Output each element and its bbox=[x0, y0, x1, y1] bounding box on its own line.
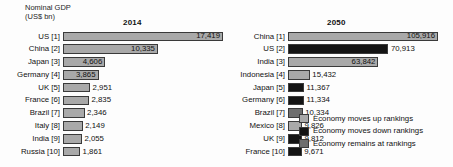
row-label-germany: Germany [4] bbox=[0, 71, 63, 79]
bar-germany bbox=[288, 96, 304, 106]
row-label-india: India [3] bbox=[226, 58, 288, 66]
bar-value-label: 2,951 bbox=[93, 84, 113, 92]
row-label-brazil: Brazil [7] bbox=[0, 109, 63, 117]
bar-value-label: 11,367 bbox=[307, 84, 330, 92]
bar-value-label: 15,432 bbox=[312, 71, 336, 79]
bar-value-label: 11,334 bbox=[307, 96, 330, 104]
bar-area: 1,861 bbox=[63, 145, 226, 158]
bar-value-label: 2,149 bbox=[85, 122, 105, 130]
bar-value-label: 70,913 bbox=[391, 45, 415, 53]
chart-row: Germany [4]3,865 bbox=[0, 68, 226, 81]
bar-value-label: 2,346 bbox=[87, 109, 107, 117]
bar-value-label: 3,865 bbox=[76, 71, 96, 79]
row-label-uk: UK [5] bbox=[0, 84, 63, 92]
chart-row: Germany [6]11,334 bbox=[226, 94, 453, 107]
legend-swatch-up bbox=[299, 114, 309, 123]
row-label-italy: Italy [8] bbox=[0, 122, 63, 130]
row-label-france: France [6] bbox=[0, 96, 63, 104]
bar-area: 2,346 bbox=[63, 107, 226, 120]
row-label-china: China [2] bbox=[0, 45, 63, 53]
bar-japan bbox=[288, 83, 304, 93]
bar-area: 17,419 bbox=[63, 30, 226, 43]
row-label-germany: Germany [6] bbox=[226, 96, 288, 104]
bar-area: 10,335 bbox=[63, 43, 226, 56]
chart-row: India [9]2,055 bbox=[0, 132, 226, 145]
bar-value-label: 4,606 bbox=[83, 58, 103, 66]
bar-value-label: 2,055 bbox=[84, 135, 104, 143]
panel-header-2014: 2014 bbox=[123, 18, 142, 27]
bar-area: 2,951 bbox=[63, 81, 226, 94]
bar-area: 11,334 bbox=[288, 94, 453, 107]
row-label-france: France [10] bbox=[226, 148, 288, 156]
chart-axis-title: Nominal GDP(US$ bn) bbox=[25, 3, 71, 21]
row-label-india: India [9] bbox=[0, 135, 63, 143]
bar-italy bbox=[63, 121, 83, 131]
gdp-ranking-chart: Nominal GDP(US$ bn) 2014 2050 US [1]17,4… bbox=[0, 0, 453, 167]
row-label-indonesia: Indonesia [4] bbox=[226, 71, 288, 79]
row-label-us: US [2] bbox=[226, 45, 288, 53]
axis-title-line1: Nominal GDP bbox=[25, 3, 71, 12]
panel-header-2050: 2050 bbox=[327, 18, 346, 27]
chart-row: Japan [5]11,367 bbox=[226, 81, 453, 94]
row-label-japan: Japan [3] bbox=[0, 58, 63, 66]
axis-title-line2: (US$ bn) bbox=[25, 12, 55, 21]
bar-value-label: 105,916 bbox=[407, 32, 435, 40]
legend-label-down: Economy moves down rankings bbox=[313, 127, 423, 135]
bar-area: 2,149 bbox=[63, 120, 226, 133]
bar-value-label: 1,861 bbox=[83, 148, 103, 156]
bar-france bbox=[63, 96, 89, 106]
bar-area: 70,913 bbox=[288, 43, 453, 56]
chart-row: US [1]17,419 bbox=[0, 30, 226, 43]
bar-us bbox=[288, 44, 388, 54]
bar-area: 3,865 bbox=[63, 68, 226, 81]
chart-row: India [3]63,842 bbox=[226, 56, 453, 69]
legend-item-up: Economy moves up rankings bbox=[299, 113, 423, 124]
bar-value-label: 10,335 bbox=[131, 45, 155, 53]
chart-row: US [2]70,913 bbox=[226, 43, 453, 56]
legend-label-remains: Economy remains at rankings bbox=[313, 140, 416, 148]
row-label-brazil: Brazil [7] bbox=[226, 109, 288, 117]
chart-row: UK [5]2,951 bbox=[0, 81, 226, 94]
bar-area: 2,835 bbox=[63, 94, 226, 107]
chart-row: Indonesia [4]15,432 bbox=[226, 68, 453, 81]
chart-row: France [6]2,835 bbox=[0, 94, 226, 107]
bar-india bbox=[63, 134, 82, 144]
chart-panel-2014: US [1]17,419China [2]10,335Japan [3]4,60… bbox=[0, 30, 226, 158]
chart-row: Japan [3]4,606 bbox=[0, 56, 226, 69]
bar-area: 11,367 bbox=[288, 81, 453, 94]
bar-russia bbox=[63, 147, 80, 157]
legend-swatch-down bbox=[299, 127, 309, 136]
row-label-uk: UK [9] bbox=[226, 135, 288, 143]
chart-row: China [1]105,916 bbox=[226, 30, 453, 43]
bar-brazil bbox=[63, 108, 85, 118]
chart-row: Russia [10]1,861 bbox=[0, 145, 226, 158]
row-label-us: US [1] bbox=[0, 33, 63, 41]
bar-value-label: 63,842 bbox=[352, 58, 376, 66]
chart-row: China [2]10,335 bbox=[0, 43, 226, 56]
chart-legend: Economy moves up rankingsEconomy moves d… bbox=[299, 113, 423, 149]
legend-item-remains: Economy remains at rankings bbox=[299, 138, 423, 149]
row-label-mexico: Mexico [8] bbox=[226, 122, 288, 130]
bar-area: 2,055 bbox=[63, 132, 226, 145]
bar-value-label: 2,835 bbox=[92, 96, 112, 104]
bar-value-label: 17,419 bbox=[196, 32, 220, 40]
chart-row: Brazil [7]2,346 bbox=[0, 107, 226, 120]
bar-uk bbox=[63, 83, 90, 93]
bar-indonesia bbox=[288, 70, 310, 80]
bar-area: 63,842 bbox=[288, 56, 453, 69]
bar-area: 4,606 bbox=[63, 56, 226, 69]
row-label-china: China [1] bbox=[226, 33, 288, 41]
row-label-japan: Japan [5] bbox=[226, 84, 288, 92]
row-label-russia: Russia [10] bbox=[0, 148, 63, 156]
chart-row: Italy [8]2,149 bbox=[0, 120, 226, 133]
bar-area: 105,916 bbox=[288, 30, 453, 43]
legend-swatch-remains bbox=[299, 139, 309, 148]
legend-item-down: Economy moves down rankings bbox=[299, 126, 423, 137]
legend-label-up: Economy moves up rankings bbox=[313, 115, 413, 123]
bar-area: 15,432 bbox=[288, 68, 453, 81]
